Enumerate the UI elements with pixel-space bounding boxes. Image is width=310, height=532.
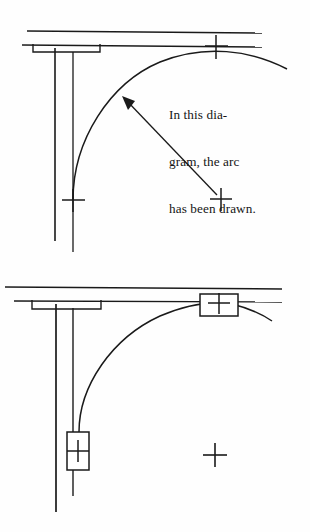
top-horizontal-member-upper-line xyxy=(27,31,262,33)
bottom-panel-drawing xyxy=(0,266,310,532)
bottom-arc-left-segment xyxy=(79,303,216,432)
bottom-horizontal-member-upper-line xyxy=(5,287,282,289)
bottom-horizontal-member-lower-line xyxy=(14,301,282,302)
top-caption-line-1: In this dia- xyxy=(169,107,256,123)
panel-arc-drawn: In this dia- gram, the arc has been draw… xyxy=(0,0,310,266)
top-caption-line-3: has been drawn. xyxy=(169,201,256,217)
top-panel-caption: In this dia- gram, the arc has been draw… xyxy=(169,76,256,248)
bottom-cross-mark-pivot xyxy=(203,443,227,467)
top-caption-line-2: gram, the arc xyxy=(169,154,256,170)
diagram-page: In this dia- gram, the arc has been draw… xyxy=(0,0,310,532)
top-cross-mark-vertical xyxy=(62,189,85,212)
panel-little-blocks: Use the little blocks to raise the inter… xyxy=(0,266,310,532)
top-panel-drawing xyxy=(0,0,310,266)
